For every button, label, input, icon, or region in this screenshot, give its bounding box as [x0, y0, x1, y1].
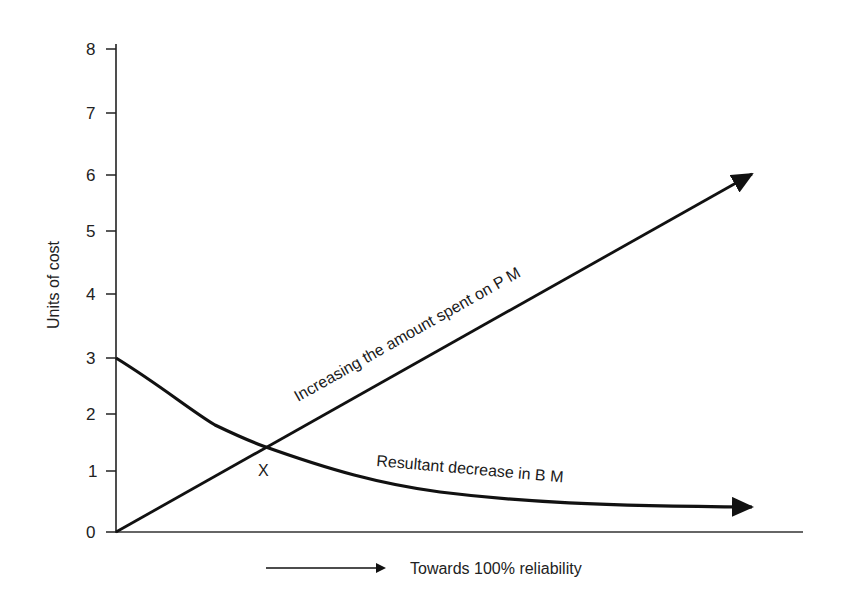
bm-curve-label: Resultant decrease in B M	[376, 452, 564, 485]
y-tick-label: 5	[86, 222, 95, 241]
y-ticks	[106, 49, 116, 532]
chart-canvas: 0 1 2 3 4 5 6 7 8 Units of cost Increasi…	[0, 0, 844, 606]
y-tick-label: 8	[86, 40, 95, 59]
y-tick-label: 3	[86, 349, 95, 368]
y-tick-label: 1	[88, 462, 97, 481]
x-axis-title: Towards 100% reliability	[410, 560, 582, 577]
y-tick-label: 2	[86, 405, 95, 424]
pm-line-label: Increasing the amount spent on P M	[291, 264, 523, 405]
y-axis-title: Units of cost	[45, 240, 62, 329]
y-tick-label: 4	[86, 285, 95, 304]
y-tick-label: 0	[86, 523, 95, 542]
intersection-label: X	[258, 462, 269, 479]
bm-cost-curve	[116, 358, 752, 507]
y-tick-label: 7	[86, 104, 95, 123]
y-tick-label: 6	[86, 166, 95, 185]
y-tick-labels: 0 1 2 3 4 5 6 7 8	[86, 40, 97, 542]
pm-cost-line	[116, 174, 752, 532]
